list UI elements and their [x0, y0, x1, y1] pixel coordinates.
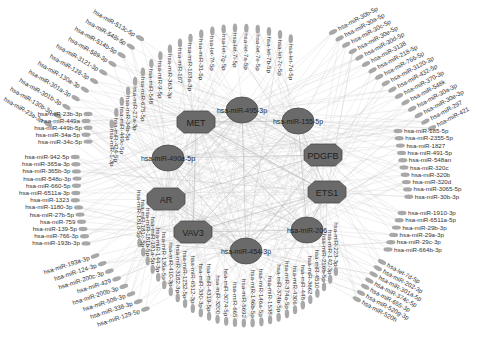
leaf-node-shape	[199, 30, 203, 39]
leaf-node[interactable]: hsa-miR-1827	[396, 142, 446, 149]
network-diagram: hsa-miR-513c-5phsa-miR-548i-5phsa-miR-51…	[0, 0, 478, 349]
leaf-node[interactable]: hsa-miR-135a-5p	[161, 232, 168, 289]
leaf-node-shape	[191, 304, 195, 313]
leaf-node[interactable]: hsa-miR-146a-5p	[258, 269, 265, 326]
leaf-node[interactable]: hsa-miR-144-3p	[155, 228, 162, 282]
leaf-node-shape	[119, 283, 129, 290]
hub-gene-label: AR	[160, 195, 173, 205]
leaf-node[interactable]: hsa-miR-4306	[292, 266, 299, 314]
leaf-node[interactable]: hsa-let-7e-5p	[255, 25, 262, 72]
leaf-node[interactable]: hsa-miR-4510	[314, 250, 321, 298]
leaf-node-label: hsa-miR-363-3p	[167, 54, 174, 99]
leaf-node[interactable]: hsa-let-7g-5p	[221, 25, 228, 72]
leaf-node[interactable]: hsa-miR-320c	[400, 164, 449, 171]
leaf-node[interactable]: hsa-miR-139-5p	[33, 225, 88, 232]
hub-mirna-label: hsa-miR-454-3p	[221, 248, 271, 256]
leaf-node[interactable]: hsa-let-7i-5p	[232, 24, 239, 68]
leaf-node[interactable]: hsa-miR-365b-3p	[23, 167, 81, 174]
leaf-node-shape	[145, 256, 149, 265]
hub-mirna[interactable]: hsa-miR-495-3p	[217, 97, 267, 123]
leaf-node[interactable]: hsa-miR-491-5p	[397, 149, 452, 156]
leaf-node[interactable]: hsa-miR-34c-5p	[38, 138, 93, 145]
edge	[193, 121, 298, 232]
leaf-node[interactable]: hsa-let-7d-5p	[288, 34, 295, 81]
leaf-node-shape	[387, 86, 397, 94]
leaf-node-shape	[140, 306, 150, 313]
leaf-node[interactable]: hsa-let-7f-5p	[209, 27, 216, 72]
hub-gene-label: VAV3	[182, 228, 204, 238]
leaf-node[interactable]: hsa-miR-3200	[215, 275, 222, 323]
leaf-node-shape	[335, 34, 345, 42]
leaf-node-shape	[107, 60, 117, 68]
leaf-node[interactable]: hsa-miR-6511a-3p	[19, 189, 80, 196]
leaf-node[interactable]: hsa-miR-193b-3p	[32, 239, 90, 246]
leaf-node[interactable]: hsa-miR-6512-3p	[190, 256, 197, 313]
leaf-node-label: hsa-miR-6512-3p	[190, 256, 197, 304]
leaf-node-label: hsa-miR-9-5p	[157, 61, 164, 99]
leaf-node[interactable]: hsa-miR-1252-5p	[182, 251, 189, 308]
leaf-node[interactable]: hsa-miR-374b-5p	[276, 264, 283, 321]
leaf-node[interactable]: hsa-miR-5692	[241, 279, 248, 327]
leaf-node[interactable]: hsa-miR-448	[300, 265, 307, 310]
leaf-node-label: hsa-miR-34b-5p	[125, 96, 132, 141]
leaf-node[interactable]: hsa-miR-330-3p	[198, 263, 205, 317]
leaf-node[interactable]: hsa-miR-3065-5p	[403, 185, 462, 192]
leaf-node[interactable]: hsa-miR-548o-3p	[23, 175, 81, 182]
leaf-node[interactable]: hsa-miR-664b-3p	[384, 246, 443, 253]
leaf-node[interactable]: hsa-miR-410-3p	[168, 242, 175, 296]
leaf-node[interactable]: hsa-miR-3074-5p	[223, 268, 230, 325]
leaf-node[interactable]: hsa-miR-449c-5p	[119, 97, 126, 155]
leaf-node-shape	[207, 312, 211, 321]
leaf-node[interactable]: hsa-miR-31-5p	[198, 30, 205, 81]
leaf-node[interactable]: hsa-let-7c-5p	[277, 30, 284, 76]
leaf-node[interactable]: hsa-miR-29c-3p	[386, 238, 441, 245]
hub-gene-ar[interactable]: AR	[147, 188, 185, 210]
leaf-node-shape	[104, 268, 114, 275]
leaf-node[interactable]: hsa-miR-27a-3p	[132, 77, 139, 131]
leaf-node[interactable]: hsa-miR-185-5p	[394, 127, 449, 134]
leaf-node[interactable]: hsa-miR-29a-3p	[389, 231, 444, 238]
leaf-node-shape	[348, 47, 358, 55]
leaf-node-label: hsa-let-7d-5p	[288, 44, 295, 81]
edge	[242, 110, 365, 287]
leaf-node[interactable]: hsa-miR-29b-3p	[392, 224, 447, 231]
hub-mirna[interactable]: hsa-miR-155-5p	[273, 108, 323, 134]
leaf-node[interactable]: hsa-miR-107	[177, 39, 184, 84]
leaf-node-shape	[368, 66, 378, 74]
leaf-node-label: hsa-miR-365b-3p	[23, 167, 71, 174]
hub-gene-vav3[interactable]: VAV3	[174, 221, 212, 243]
leaf-node[interactable]: hsa-let-7b-5p	[266, 27, 273, 74]
leaf-node[interactable]: hsa-miR-1910-3p	[398, 209, 457, 216]
hub-gene-pdgfb[interactable]: PDGFB	[304, 144, 342, 166]
leaf-node[interactable]: hsa-miR-365a-3p	[22, 160, 80, 167]
leaf-node[interactable]: hsa-miR-3662	[307, 256, 314, 304]
leaf-node[interactable]: hsa-miR-320d	[402, 178, 452, 185]
leaf-node-shape	[71, 155, 80, 159]
leaf-node[interactable]: hsa-miR-103a-3p	[187, 34, 194, 92]
leaf-node[interactable]: hsa-miR-942-5p	[25, 153, 80, 160]
leaf-node[interactable]: hsa-miR-320b	[401, 171, 451, 178]
leaf-node[interactable]: hsa-miR-374a-5p	[284, 261, 291, 318]
hub-gene-met[interactable]: MET	[177, 111, 215, 133]
leaf-node[interactable]: hsa-miR-9-5p	[157, 51, 164, 99]
leaf-node[interactable]: hsa-miR-675-5p	[140, 67, 147, 121]
leaf-node[interactable]: hsa-miR-1323	[30, 196, 79, 203]
leaf-node[interactable]: hsa-miR-1180-3p	[25, 203, 83, 210]
leaf-node-label: hsa-miR-193b-3p	[32, 239, 80, 246]
leaf-node[interactable]: hsa-miR-759	[40, 218, 86, 225]
leaf-node[interactable]: hsa-miR-6511a-5p	[395, 216, 457, 223]
leaf-node[interactable]: hsa-miR-766-3p	[34, 232, 89, 239]
leaf-node[interactable]: hsa-miR-4319-5p	[206, 264, 213, 321]
leaf-node[interactable]: hsa-miR-27b-5p	[30, 211, 85, 218]
leaf-node[interactable]: hsa-miR-660-5p	[26, 182, 81, 189]
leaf-node-label: hsa-miR-1180-3p	[25, 203, 73, 210]
leaf-node[interactable]: hsa-miR-548an	[398, 156, 451, 163]
leaf-node[interactable]: hsa-miR-1538	[267, 276, 274, 324]
leaf-node[interactable]: hsa-let-7a-5p	[243, 24, 250, 71]
leaf-node[interactable]: hsa-miR-34b-5p	[125, 87, 132, 141]
hub-gene-ets1[interactable]: ETS1	[308, 181, 346, 203]
leaf-node[interactable]: hsa-miR-30b-3p	[404, 193, 459, 200]
leaf-node[interactable]: hsa-miR-665	[232, 282, 239, 327]
leaf-node[interactable]: hsa-miR-2355-5p	[395, 134, 454, 141]
leaf-node-label: hsa-miR-766-3p	[34, 232, 79, 239]
